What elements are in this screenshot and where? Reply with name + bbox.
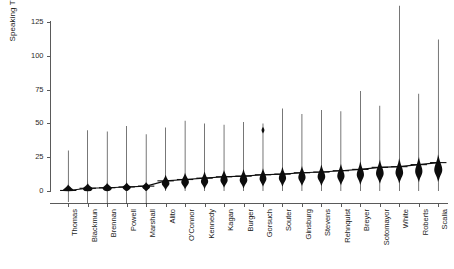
x-tick-mark [360, 203, 361, 207]
violin-ginsburg [298, 114, 305, 191]
y-tick-label: 25 [35, 153, 43, 161]
x-tick-mark [185, 203, 186, 207]
x-tick-label-gorsuch: Gorsuch [266, 209, 274, 237]
violin-gorsuch [260, 123, 267, 191]
x-tick-mark [341, 203, 342, 207]
violin-oconnor [181, 121, 189, 191]
x-tick-label-thomas: Thomas [71, 209, 79, 236]
x-tick-label-kennedy: Kennedy [208, 209, 216, 239]
violin-blackmun [83, 130, 93, 203]
y-tick-mark [47, 123, 51, 124]
x-tick-mark [302, 203, 303, 207]
x-tick-label-stevens: Stevens [324, 209, 332, 236]
y-tick-label: 75 [35, 86, 43, 94]
x-tick-mark [127, 203, 128, 207]
x-tick-mark [419, 203, 420, 207]
y-tick-mark [47, 22, 51, 23]
x-tick-mark [68, 203, 69, 207]
y-tick-mark [47, 56, 51, 57]
x-tick-label-roberts: Roberts [422, 209, 430, 235]
x-tick-mark [321, 203, 322, 207]
violin-breyer [357, 91, 364, 191]
violin-powell [122, 126, 130, 203]
x-tick-mark [107, 203, 108, 207]
x-tick-mark [282, 203, 283, 207]
x-tick-mark [224, 203, 225, 207]
y-tick-label: 100 [31, 52, 44, 60]
violin-burger [240, 122, 248, 191]
x-tick-mark [380, 203, 381, 207]
y-axis-label-host: Speaking Turns [6, 0, 20, 200]
x-tick-label-burger: Burger [247, 209, 255, 232]
y-tick-label: 50 [35, 119, 43, 127]
y-tick-label: 125 [31, 18, 44, 26]
y-tick-mark [47, 157, 51, 158]
violin-thomas [63, 150, 74, 202]
x-tick-label-ginsburg: Ginsburg [305, 209, 313, 239]
x-tick-mark [205, 203, 206, 207]
y-axis-line [50, 21, 51, 192]
median-trend-line [68, 163, 438, 191]
violin-plot-figure: Speaking Turns 1251007550250 ThomasBlack… [0, 0, 454, 269]
violin-sotomayor [376, 106, 384, 191]
x-tick-label-oconnor: O'Connor [188, 209, 196, 241]
x-tick-label-white: White [402, 209, 410, 228]
violin-marshall [142, 134, 150, 204]
x-tick-mark [263, 203, 264, 207]
x-tick-label-brennan: Brennan [110, 209, 118, 237]
violin-roberts [415, 94, 422, 191]
x-tick-mark [166, 203, 167, 207]
violin-kennedy [201, 123, 208, 191]
x-tick-mark [438, 203, 439, 207]
violin-rehnquist [337, 111, 344, 191]
violin-kagan [220, 125, 227, 191]
x-tick-label-marshall: Marshall [149, 209, 157, 237]
y-tick-mark [47, 90, 51, 91]
x-tick-label-kagan: Kagan [227, 209, 235, 231]
x-tick-label-alito: Alito [169, 209, 177, 224]
violin-souter [279, 109, 286, 191]
violin-white [396, 6, 404, 191]
violin-brennan [103, 132, 112, 204]
x-axis-line [50, 203, 448, 204]
x-tick-label-sotomayor: Sotomayor [383, 209, 391, 245]
x-tick-label-scalia: Scalia [441, 209, 449, 229]
y-tick-mark [47, 191, 51, 192]
x-tick-label-blackmun: Blackmun [91, 209, 99, 242]
x-tick-mark [146, 203, 147, 207]
x-tick-mark [399, 203, 400, 207]
y-axis-label: Speaking Turns [8, 0, 17, 58]
x-tick-label-souter: Souter [285, 209, 293, 231]
x-tick-label-rehnquist: Rehnquist [344, 209, 352, 243]
x-tick-mark [244, 203, 245, 207]
violin-scalia [434, 40, 442, 191]
x-tick-label-powell: Powell [130, 209, 138, 231]
x-tick-mark [88, 203, 89, 207]
violin-alito [162, 127, 170, 191]
x-tick-label-breyer: Breyer [363, 209, 371, 231]
y-tick-label: 0 [39, 187, 43, 195]
violin-stevens [318, 110, 326, 191]
